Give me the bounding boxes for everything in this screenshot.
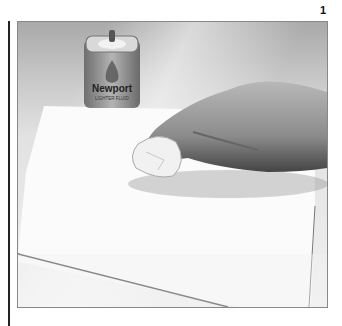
hand-with-cloth bbox=[118, 72, 327, 222]
page-number: 1 bbox=[320, 4, 326, 16]
margin-rule bbox=[8, 21, 10, 326]
illustration-photo: Newport LIGHTER FLUID bbox=[17, 21, 328, 308]
